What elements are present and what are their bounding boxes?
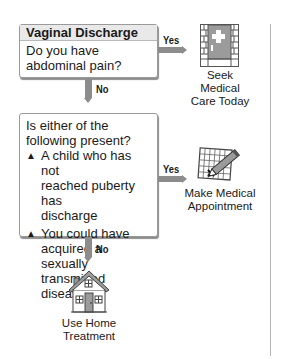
no-label-2: No <box>96 243 108 255</box>
no-arrow-2 <box>85 237 92 257</box>
outcome-make-appointment: Make Medical Appointment <box>184 187 256 213</box>
yes-label-2: Yes <box>163 163 179 175</box>
question-1-text: Do you have abdominal pain? <box>20 41 132 75</box>
flowchart-title: Vaginal Discharge <box>20 25 157 41</box>
calendar-pencil-icon <box>196 143 242 183</box>
yes-arrow-2 <box>158 176 182 182</box>
outcome-use-home-treatment: Use Home Treatment <box>58 317 120 343</box>
question-2-intro: Is either of the following present? <box>26 118 151 148</box>
yes-label-1: Yes <box>163 34 179 46</box>
triangle-bullet-icon: ▲ <box>26 226 36 241</box>
question-box-abdominal-pain: Vaginal Discharge Do you have abdominal … <box>19 24 158 78</box>
house-icon <box>67 269 111 314</box>
hospital-door-icon <box>200 24 239 67</box>
column-divider <box>270 24 271 356</box>
no-label-1: No <box>96 83 108 95</box>
outcome-seek-medical-care: Seek Medical Care Today <box>188 69 252 108</box>
question-box-either-present: Is either of the following present? ▲ A … <box>19 113 158 237</box>
no-arrow-1 <box>85 78 92 98</box>
triangle-bullet-icon: ▲ <box>26 148 36 163</box>
yes-arrow-1 <box>158 47 182 53</box>
criteria-item: ▲ A child who has not reached puberty ha… <box>26 148 151 223</box>
